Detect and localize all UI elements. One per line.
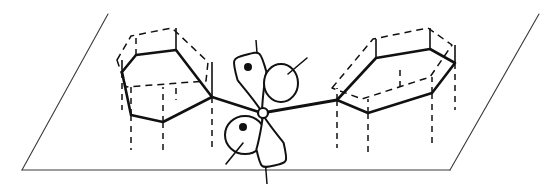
orbital-diagram-svg [0, 0, 557, 188]
upper-p-lobe-tail [288, 58, 307, 74]
lower-p-lobe-electron-dot [239, 123, 247, 131]
left-ring-dashed-hexagon [117, 28, 208, 87]
right-ring-bond-to-center [262, 100, 337, 113]
upper-sigma-lobe-electron-dot [244, 63, 252, 71]
right-ring-solid-hexagon [337, 49, 455, 113]
carbene-center-node [258, 108, 268, 118]
plane-left-edge [22, 14, 108, 170]
figure-root [0, 0, 557, 188]
left-ring-dashed-risers-down [122, 72, 212, 155]
left-ring-dashed-risers-up [131, 36, 163, 122]
upper-sigma-lobe [234, 53, 267, 112]
plane-right-edge [450, 14, 539, 170]
